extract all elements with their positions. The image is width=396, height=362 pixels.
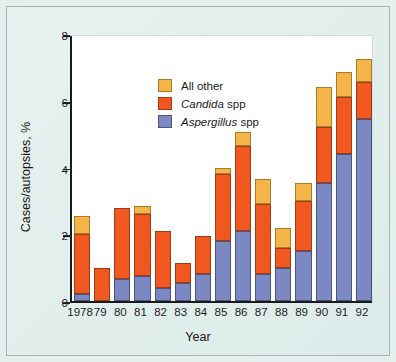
- y-tick-mark: [63, 302, 70, 304]
- bar-80: [114, 208, 130, 301]
- bar-81: [134, 206, 150, 301]
- bar-segment-orange: [275, 248, 291, 268]
- bar-82: [155, 231, 171, 301]
- bar-1978: [74, 216, 90, 301]
- bar-segment-orange: [235, 146, 251, 231]
- bar-88: [275, 228, 291, 301]
- bar-segment-blue: [74, 294, 90, 301]
- bar-92: [356, 59, 372, 301]
- bar-segment-blue: [134, 276, 150, 301]
- bar-segment-yellow: [336, 72, 352, 97]
- bar-segment-blue: [275, 268, 291, 301]
- x-axis-title: Year: [0, 330, 396, 344]
- legend-label: Aspergillus spp: [181, 116, 259, 128]
- bar-segment-blue: [235, 231, 251, 301]
- bar-segment-orange: [134, 214, 150, 276]
- legend-swatch-blue: [158, 115, 172, 128]
- bar-86: [235, 132, 251, 301]
- bar-89: [295, 183, 311, 301]
- legend-item: Aspergillus spp: [158, 114, 308, 130]
- bar-segment-orange: [255, 204, 271, 274]
- bar-segment-yellow: [215, 168, 231, 175]
- bar-segment-yellow: [295, 183, 311, 201]
- bar-segment-orange: [295, 201, 311, 251]
- bar-87: [255, 179, 271, 301]
- bar-91: [336, 72, 352, 301]
- bar-segment-orange: [215, 174, 231, 241]
- bar-83: [175, 263, 191, 301]
- legend-genus-name: Candida: [181, 98, 224, 110]
- chart-legend: All otherCandida sppAspergillus spp: [158, 78, 308, 132]
- bar-85: [215, 168, 231, 302]
- bar-79: [94, 268, 110, 301]
- bar-segment-yellow: [134, 206, 150, 214]
- bar-segment-yellow: [235, 132, 251, 145]
- bar-segment-yellow: [275, 228, 291, 248]
- bar-segment-orange: [356, 82, 372, 119]
- bar-segment-orange: [195, 236, 211, 274]
- bar-segment-orange: [114, 208, 130, 280]
- plot-right-edge: [372, 36, 373, 304]
- bar-segment-orange: [316, 127, 332, 182]
- bar-segment-blue: [195, 274, 211, 301]
- bar-segment-yellow: [316, 87, 332, 127]
- y-tick-mark: [63, 169, 70, 171]
- bar-84: [195, 236, 211, 301]
- bar-segment-blue: [336, 154, 352, 301]
- bar-segment-yellow: [255, 179, 271, 204]
- figure-container: Cases/autopsies, % 02468 All otherCandid…: [0, 0, 396, 362]
- legend-label: All other: [181, 80, 223, 92]
- bar-segment-blue: [175, 283, 191, 301]
- plot-area: All otherCandida sppAspergillus spp: [70, 36, 372, 303]
- legend-genus-name: Aspergillus: [181, 116, 237, 128]
- y-tick-mark: [63, 102, 70, 104]
- bar-segment-blue: [155, 288, 171, 301]
- y-axis-title: Cases/autopsies, %: [19, 77, 33, 277]
- y-tick-mark: [63, 235, 70, 237]
- bar-segment-blue: [255, 274, 271, 301]
- legend-swatch-yellow: [158, 79, 172, 92]
- x-tick-label-92: 92: [342, 306, 382, 318]
- legend-swatch-orange: [158, 97, 172, 110]
- bar-segment-orange: [74, 234, 90, 294]
- bar-segment-orange: [155, 231, 171, 288]
- bar-segment-yellow: [74, 216, 90, 234]
- bar-segment-blue: [114, 279, 130, 301]
- bar-segment-blue: [215, 241, 231, 301]
- bar-segment-orange: [175, 263, 191, 283]
- bar-segment-blue: [316, 183, 332, 301]
- bar-segment-yellow: [356, 59, 372, 82]
- bar-segment-blue: [356, 119, 372, 301]
- y-tick-mark: [63, 35, 70, 37]
- legend-item: All other: [158, 78, 308, 94]
- bar-segment-blue: [295, 251, 311, 301]
- legend-label: Candida spp: [181, 98, 246, 110]
- bar-segment-orange: [94, 268, 110, 301]
- bar-segment-orange: [336, 97, 352, 154]
- bar-90: [316, 87, 332, 301]
- legend-item: Candida spp: [158, 96, 308, 112]
